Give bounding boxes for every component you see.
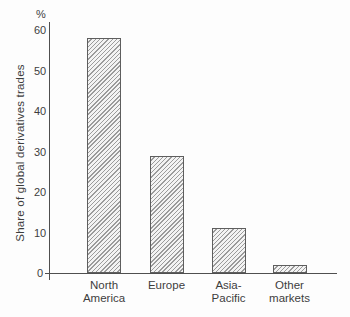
x-category-label-line: America	[59, 292, 149, 305]
x-category-label-line: Other	[245, 279, 335, 292]
x-category-label-line: markets	[245, 292, 335, 305]
y-tick-label-0: 0	[24, 266, 56, 280]
x-category-label-other-markets: Othermarkets	[245, 279, 335, 305]
y-tick-label-10: 10	[24, 226, 56, 240]
y-tick-label-20: 20	[24, 185, 56, 199]
bar-asia-pacific	[212, 228, 246, 273]
y-tick-label-60: 60	[24, 23, 56, 37]
y-tick-label-30: 30	[24, 145, 56, 159]
y-tick-label-40: 40	[24, 104, 56, 118]
bar-europe	[150, 156, 184, 273]
y-axis-unit-label: %	[33, 8, 49, 21]
x-axis-line	[45, 273, 337, 274]
y-tick-label-50: 50	[24, 64, 56, 78]
derivatives-share-bar-chart: % Share of global derivatives trades 010…	[0, 0, 350, 317]
bar-north-america	[87, 38, 121, 273]
bar-other-markets	[273, 265, 307, 273]
